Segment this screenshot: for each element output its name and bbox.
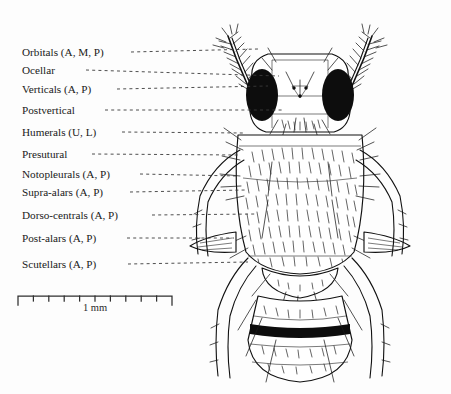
label-post-alars: Post-alars (A, P) — [22, 232, 97, 245]
label-dorso-centrals: Dorso-centrals (A, P) — [22, 209, 118, 222]
scale-bar-caption: 1 mm — [83, 302, 107, 313]
illustration-canvas: Orbitals (A, M, P) Ocellar Verticals (A,… — [0, 0, 451, 394]
label-notopleurals: Notopleurals (A, P) — [22, 168, 110, 181]
label-orbitals: Orbitals (A, M, P) — [22, 46, 104, 59]
label-supra-alars: Supra-alars (A, P) — [22, 186, 103, 199]
label-postvertical: Postvertical — [22, 104, 75, 116]
label-humerals: Humerals (U, L) — [22, 126, 97, 139]
label-ocellar: Ocellar — [22, 64, 55, 76]
head — [246, 48, 354, 138]
label-verticals: Verticals (A, P) — [22, 83, 92, 96]
label-scutellars: Scutellars (A, P) — [22, 258, 97, 271]
figure-root: Orbitals (A, M, P) Ocellar Verticals (A,… — [0, 0, 451, 394]
label-presutural: Presutural — [22, 148, 67, 160]
right-compound-eye — [322, 69, 354, 121]
left-compound-eye — [246, 69, 278, 121]
